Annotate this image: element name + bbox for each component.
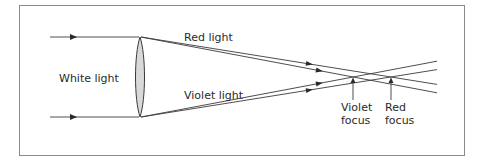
red-focus-label-line1: Red — [385, 101, 406, 114]
chromatic-aberration-diagram: White light Red light Violet light Viole… — [0, 0, 482, 162]
convex-lens — [136, 37, 145, 117]
red-light-label: Red light — [184, 31, 233, 44]
violet-focus-label-line2: focus — [341, 114, 371, 127]
violet-focus-label-line1: Violet — [341, 101, 373, 114]
violet-light-label: Violet light — [184, 89, 244, 102]
red-focus-label-line2: focus — [385, 114, 415, 127]
white-light-label: White light — [59, 72, 120, 85]
